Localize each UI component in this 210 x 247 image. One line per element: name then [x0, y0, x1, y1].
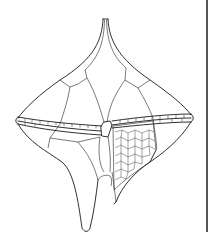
reticulated-plate: [113, 121, 156, 190]
epitheca-plates: [60, 68, 153, 124]
hypotheca: [18, 118, 191, 231]
apical-horn: [18, 19, 191, 118]
cingulum: [16, 114, 194, 137]
frame-edge-line: [206, 0, 208, 232]
dinoflagellate-illustration: [0, 0, 210, 247]
